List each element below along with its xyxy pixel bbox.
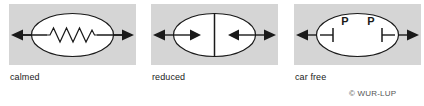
caption-car-free: car free: [295, 72, 326, 82]
copyright-text: WUR-LUP: [358, 89, 397, 98]
copyright-icon: ©: [349, 89, 355, 98]
traffic-scheme-figure: calmed reduced: [0, 0, 424, 106]
right-arrowhead-icon: [264, 30, 276, 41]
left-arrowhead-icon: [296, 30, 308, 41]
caption-reduced: reduced: [152, 72, 185, 82]
panel-calmed-graphic: [9, 4, 136, 65]
left-arrowhead-icon: [153, 30, 165, 41]
parking-label-left: P: [341, 15, 348, 27]
right-arrowhead-icon: [407, 30, 419, 41]
panel-reduced: [151, 4, 278, 65]
parking-label-right: P: [367, 15, 374, 27]
panel-car-free-graphic: P P: [294, 4, 421, 65]
right-arrowhead-icon: [122, 30, 134, 41]
panel-reduced-graphic: [151, 4, 278, 65]
left-arrowhead-icon: [11, 30, 23, 41]
caption-calmed: calmed: [10, 72, 40, 82]
panel-car-free: P P: [294, 4, 421, 65]
copyright-credit: © WUR-LUP: [349, 89, 396, 98]
panel-calmed: [9, 4, 136, 65]
